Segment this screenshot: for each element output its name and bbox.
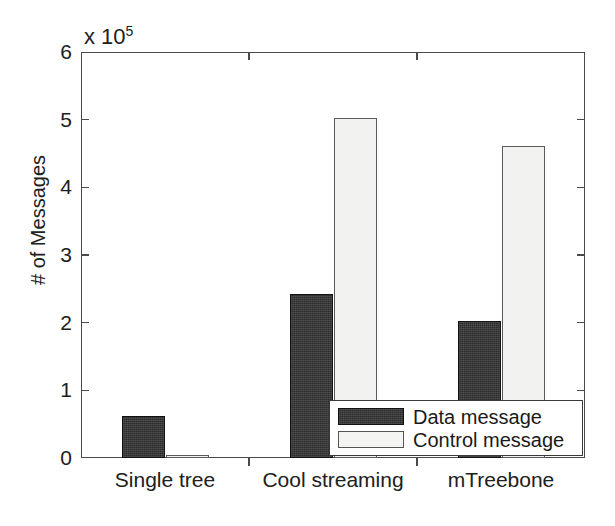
legend-label-data-message: Data message [413, 406, 542, 428]
y-axis-exponent-power: 5 [126, 23, 134, 39]
y-tick-label: 4 [40, 176, 72, 197]
y-tick-mark [81, 254, 89, 256]
y-tick-label: 2 [40, 312, 72, 333]
x-tick-mark-top [248, 52, 250, 60]
bar-dark-0 [122, 416, 165, 458]
y-tick-label: 1 [40, 379, 72, 400]
x-category-label: Cool streaming [238, 468, 428, 492]
y-tick-mark-right [577, 322, 585, 324]
y-tick-label: 6 [40, 41, 72, 62]
bar-light-0 [166, 455, 209, 458]
y-tick-mark [81, 187, 89, 189]
y-tick-mark [81, 119, 89, 121]
y-tick-mark-right [577, 187, 585, 189]
y-tick-mark-right [577, 119, 585, 121]
legend-swatch-control-message [338, 431, 404, 448]
legend-swatch-data-message [338, 408, 404, 425]
y-tick-mark-right [577, 390, 585, 392]
x-tick-mark [248, 458, 250, 466]
y-tick-label: 5 [40, 109, 72, 130]
y-axis-exponent-mantissa: x 10 [84, 24, 126, 49]
y-tick-mark [81, 390, 89, 392]
y-axis-title: # of Messages [28, 120, 48, 320]
x-category-label: mTreebone [406, 468, 596, 492]
y-tick-mark-right [577, 254, 585, 256]
legend-label-control-message: Control message [413, 429, 564, 451]
legend-item-data-message: Data message [338, 405, 576, 428]
legend-item-control-message: Control message [338, 428, 576, 451]
bar-dark-1 [290, 294, 333, 458]
x-tick-mark-top [416, 52, 418, 60]
bar-chart-figure: x 105 # of Messages 0123456 Single treeC… [0, 0, 615, 526]
x-category-label: Single tree [70, 468, 260, 492]
y-axis-exponent-label: x 105 [84, 20, 133, 48]
chart-legend: Data message Control message [329, 400, 583, 456]
y-tick-label: 0 [40, 447, 72, 468]
y-tick-mark [81, 322, 89, 324]
y-tick-label: 3 [40, 244, 72, 265]
x-tick-mark [416, 458, 418, 466]
